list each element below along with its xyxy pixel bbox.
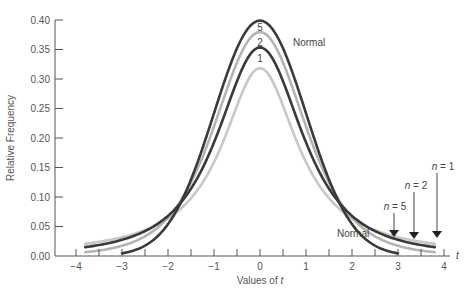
y-tick-label: 0.35 <box>31 44 51 55</box>
peak-label-n5: 5 <box>257 22 263 33</box>
x-tick-label: −4 <box>70 261 82 272</box>
t-distribution-chart: 0.000.050.100.150.200.250.300.350.40 −4−… <box>0 0 473 295</box>
y-tick-label: 0.30 <box>31 74 51 85</box>
x-tick-label: 4 <box>441 261 447 272</box>
peak-label-n1: 1 <box>257 53 263 64</box>
y-tick-label: 0.25 <box>31 103 51 114</box>
y-tick-label: 0.15 <box>31 162 51 173</box>
x-tick-label: 0 <box>257 261 263 272</box>
y-tick-label: 0.20 <box>31 133 51 144</box>
y-axis-ticks: 0.000.050.100.150.200.250.300.350.40 <box>31 15 63 262</box>
x-tick-label: 2 <box>349 261 355 272</box>
arrow-label-n2-value: = 2 <box>410 180 427 191</box>
normal-top-label: Normal <box>293 37 325 48</box>
x-tick-label: −2 <box>162 261 174 272</box>
arrow-label-n1-value: = 1 <box>437 161 454 172</box>
arrow-n5: n = 5 <box>384 201 407 237</box>
svg-text:n = 1: n = 1 <box>432 161 455 172</box>
normal-tail-label: Normal <box>337 228 369 239</box>
x-tick-label: 1 <box>303 261 309 272</box>
curve-n5 <box>85 32 435 252</box>
y-tick-label: 0.00 <box>31 251 51 262</box>
x-tick-label: 3 <box>395 261 401 272</box>
x-axis-title-var: t <box>280 275 284 286</box>
y-tick-label: 0.10 <box>31 192 51 203</box>
arrow-n2: n = 2 <box>405 180 428 239</box>
svg-text:n = 2: n = 2 <box>405 180 428 191</box>
curve-n1 <box>85 68 435 244</box>
x-tick-label: −3 <box>116 261 128 272</box>
y-axis-title: Relative Frequency <box>5 95 16 181</box>
x-axis-title: Values of t <box>237 275 285 286</box>
y-tick-label: 0.40 <box>31 15 51 26</box>
peak-label-n2: 2 <box>257 37 263 48</box>
y-tick-label: 0.05 <box>31 221 51 232</box>
x-axis-title-text: Values of <box>237 275 281 286</box>
arrow-n1: n = 1 <box>432 161 455 238</box>
x-axis-end-label: t <box>456 250 460 261</box>
curve-n2 <box>85 47 435 247</box>
x-tick-label: −1 <box>208 261 220 272</box>
svg-text:n = 5: n = 5 <box>384 201 407 212</box>
arrow-label-n5-value: = 5 <box>389 201 406 212</box>
